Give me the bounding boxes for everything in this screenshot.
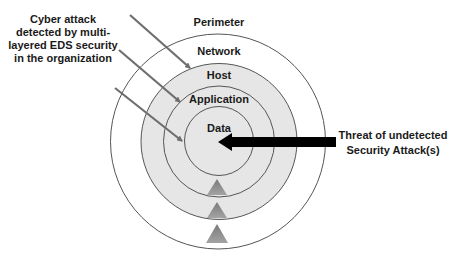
right-caption: Threat of undetected Security Attack(s)	[339, 129, 448, 156]
data-label: Data	[207, 122, 232, 134]
defense-in-depth-diagram: Perimeter Network Host Application Data …	[0, 0, 452, 262]
right-caption-line-2: Security Attack(s)	[346, 144, 439, 156]
left-caption-line-3: layered EDS security	[8, 39, 118, 51]
host-label: Host	[207, 69, 232, 81]
network-label: Network	[197, 45, 241, 57]
perimeter-label: Perimeter	[194, 16, 245, 28]
right-caption-line-1: Threat of undetected	[339, 129, 448, 141]
application-label: Application	[189, 93, 249, 105]
left-caption-line-1: Cyber attack	[30, 13, 97, 25]
left-caption-line-2: detected by multi-	[16, 26, 110, 38]
left-caption-line-4: in the organization	[14, 52, 112, 64]
left-caption: Cyber attack detected by multi- layered …	[8, 13, 118, 64]
